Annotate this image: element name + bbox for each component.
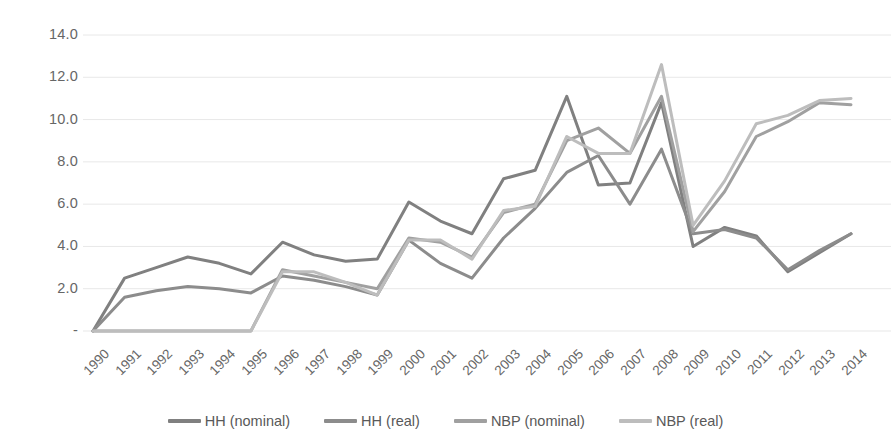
legend-label: NBP (real) — [656, 413, 723, 429]
y-tick-label: 4.0 — [10, 237, 78, 253]
series-line-2 — [93, 96, 851, 331]
series-line-1 — [93, 149, 851, 331]
y-tick-label: 10.0 — [10, 111, 78, 127]
series-line-3 — [93, 65, 851, 331]
legend-item[interactable]: NBP (nominal) — [454, 413, 585, 429]
chart-legend: HH (nominal)HH (real)NBP (nominal)NBP (r… — [0, 408, 891, 434]
y-tick-label: 12.0 — [10, 68, 78, 84]
y-tick-label: 6.0 — [10, 195, 78, 211]
legend-label: NBP (nominal) — [491, 413, 585, 429]
y-tick-label: 14.0 — [10, 26, 78, 42]
legend-item[interactable]: NBP (real) — [619, 413, 723, 429]
y-tick-label: - — [10, 322, 78, 338]
y-tick-label: 2.0 — [10, 280, 78, 296]
line-chart: -2.04.06.08.010.012.014.0 19901991199219… — [0, 0, 891, 448]
legend-item[interactable]: HH (nominal) — [168, 413, 290, 429]
legend-swatch-icon — [619, 419, 652, 422]
legend-label: HH (nominal) — [205, 413, 290, 429]
legend-swatch-icon — [454, 419, 487, 422]
legend-swatch-icon — [324, 419, 357, 422]
y-tick-label: 8.0 — [10, 153, 78, 169]
legend-label: HH (real) — [361, 413, 420, 429]
legend-item[interactable]: HH (real) — [324, 413, 420, 429]
series-line-0 — [93, 96, 851, 331]
legend-swatch-icon — [168, 419, 201, 422]
